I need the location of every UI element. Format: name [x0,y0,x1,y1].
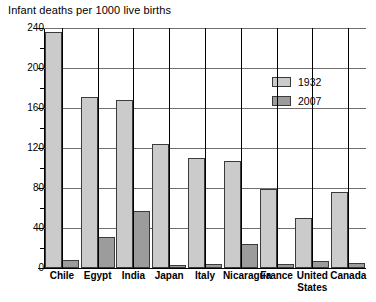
bar [260,189,277,268]
bar [241,244,258,268]
x-axis-category-label: Canada [330,270,366,282]
bar [152,144,169,268]
bar [116,100,133,268]
bar [133,211,150,268]
x-axis-category-label: Chile [44,270,80,282]
bar [331,192,348,268]
legend-item: 1932 [272,74,321,90]
x-axis-category-label: India [116,270,152,282]
bar-pair-divider [348,28,349,269]
bar [295,218,312,268]
x-axis-category-label: Nicaragua [223,270,259,282]
x-axis-category-label: Japan [151,270,187,282]
bar-pair-divider [133,28,134,269]
bar [348,263,365,268]
bar-pair-divider [98,28,99,269]
legend-swatch [272,96,291,106]
y-axis-ticks: 04080120160200240 [0,0,44,302]
bar [188,158,205,268]
x-axis-category-label: Italy [187,270,223,282]
bar-pair-divider [312,28,313,269]
infant-mortality-bar-chart: Infant deaths per 1000 live births 04080… [0,0,376,302]
bar [224,161,241,268]
chart-legend: 19322007 [272,74,321,112]
bar [277,264,294,268]
bar [81,97,98,268]
bar [45,32,62,268]
bar [62,260,79,268]
bar-pair-divider [277,28,278,269]
x-axis-category-label: Egypt [80,270,116,282]
bar [98,237,115,268]
legend-label: 1932 [298,76,321,88]
x-axis-category-label: France [259,270,295,282]
bar [205,264,222,268]
legend-swatch [272,77,291,87]
bar [169,265,186,268]
bar-pair-divider [169,28,170,269]
x-axis-category-label: United States [294,270,330,293]
bar-pair-divider [241,28,242,269]
bar [312,261,329,268]
bar-pair-divider [62,28,63,269]
x-axis-labels: ChileEgyptIndiaJapanItalyNicaraguaFrance… [44,270,366,302]
legend-label: 2007 [298,95,321,107]
legend-item: 2007 [272,93,321,109]
bar-pair-divider [205,28,206,269]
